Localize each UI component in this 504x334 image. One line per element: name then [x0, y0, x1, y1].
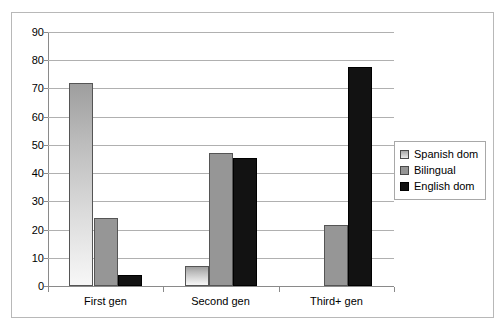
legend-label: Spanish dom: [414, 148, 478, 160]
x-tick-label: Third+ gen: [279, 295, 394, 307]
y-tick-label: 30: [14, 196, 44, 207]
y-tick-label: 60: [14, 112, 44, 123]
bar-first-gen-english-dom: [118, 275, 142, 286]
x-tick-mark: [279, 287, 280, 292]
legend-swatch-icon: [400, 166, 409, 175]
x-tick-label: First gen: [48, 295, 163, 307]
x-tick-label: Second gen: [163, 295, 278, 307]
gridline: [48, 145, 394, 146]
legend-item-spanish-dom: Spanish dom: [400, 146, 480, 162]
bar-second-gen-english-dom: [233, 158, 257, 286]
y-axis-labels: 9080706050403020100: [12, 32, 44, 287]
legend-swatch-icon: [400, 150, 409, 159]
y-tick-label: 20: [14, 225, 44, 236]
bar-second-gen-spanish-dom: [185, 266, 209, 286]
gridline: [48, 88, 394, 89]
x-tick-mark: [394, 287, 395, 292]
x-tick-mark: [163, 287, 164, 292]
bar-third-gen-bilingual: [324, 225, 348, 286]
bar-second-gen-bilingual: [209, 153, 233, 286]
bar-first-gen-spanish-dom: [69, 83, 93, 286]
y-tick-label: 70: [14, 83, 44, 94]
y-tick-label: 50: [14, 140, 44, 151]
chart-legend: Spanish domBilingualEnglish dom: [394, 141, 486, 200]
x-axis: First genSecond genThird+ gen: [48, 287, 395, 313]
legend-label: English dom: [414, 180, 475, 192]
legend-item-bilingual: Bilingual: [400, 162, 480, 178]
bar-first-gen-bilingual: [94, 218, 118, 286]
gridline: [48, 60, 394, 61]
y-tick-label: 0: [14, 281, 44, 292]
legend-swatch-icon: [400, 182, 409, 191]
legend-item-english-dom: English dom: [400, 178, 480, 194]
gridline: [48, 32, 394, 33]
y-tick-label: 40: [14, 168, 44, 179]
legend-label: Bilingual: [414, 164, 456, 176]
y-tick-label: 90: [14, 27, 44, 38]
plot-area: [48, 32, 394, 286]
chart-frame: 9080706050403020100 First genSecond genT…: [11, 12, 494, 318]
x-tick-mark: [48, 287, 49, 292]
y-tick-label: 10: [14, 253, 44, 264]
y-tick-label: 80: [14, 55, 44, 66]
bar-third-gen-english-dom: [348, 67, 372, 286]
gridline: [48, 117, 394, 118]
